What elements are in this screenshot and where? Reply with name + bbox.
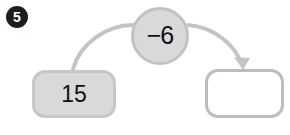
curved-arrow-up-right-icon bbox=[73, 25, 133, 69]
answer-input-box[interactable] bbox=[205, 69, 284, 118]
worksheet-exercise: 5 −6 15 bbox=[0, 0, 290, 135]
curved-arrow-down-right-icon bbox=[188, 25, 241, 63]
operator-label: −6 bbox=[147, 23, 174, 48]
input-value-label: 15 bbox=[61, 83, 87, 106]
operator-node: −6 bbox=[131, 7, 189, 65]
input-value-box: 15 bbox=[32, 70, 116, 118]
